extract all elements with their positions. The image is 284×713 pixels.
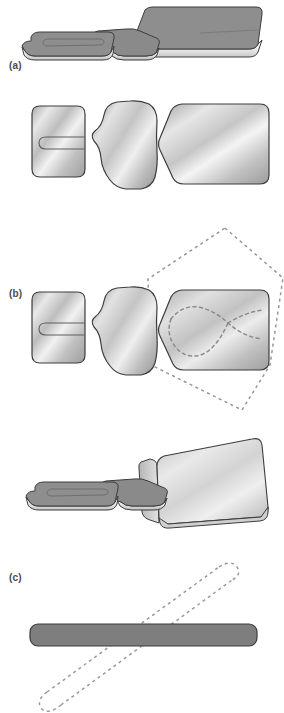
outline-rounded-pentagon-c <box>159 290 270 370</box>
outline-rounded-square-c-body <box>32 292 85 363</box>
outline-organic-blob-c-body <box>92 287 157 375</box>
slab-small-a <box>22 32 114 60</box>
outline-rounded-pentagon-b-body <box>159 104 270 184</box>
slab-large-d-face <box>157 439 268 525</box>
rotated-bar-cap-lower-e <box>39 692 61 711</box>
outline-organic-blob-c <box>92 287 157 375</box>
outline-organic-blob-b <box>92 101 157 189</box>
panel-c-illustration <box>0 215 284 420</box>
outline-rounded-square-b <box>32 106 85 177</box>
slab-small-d <box>26 482 118 510</box>
panel-b: (b) <box>0 95 284 215</box>
rotated-bar-cap-upper-e <box>219 563 239 580</box>
outline-rounded-pentagon-c-body <box>159 290 270 370</box>
outline-rounded-square-c <box>32 292 85 363</box>
panel-label-a: (a) <box>9 60 22 71</box>
panel-b-illustration <box>0 95 284 215</box>
outline-organic-blob-b-body <box>92 101 157 189</box>
panel-a-illustration <box>0 0 284 95</box>
figure-root: (a) <box>0 0 284 713</box>
outline-rounded-square-b-body <box>32 106 85 177</box>
outline-rounded-pentagon-b <box>159 104 270 184</box>
panel-e: (e) <box>0 540 284 713</box>
horizontal-bar-e <box>30 624 257 646</box>
panel-e-illustration <box>0 540 284 713</box>
panel-d-illustration <box>0 420 284 540</box>
panel-c: (c) <box>0 215 284 420</box>
slab-small-d-top <box>26 482 118 506</box>
panel-a: (a) <box>0 0 284 95</box>
panel-d: (d) <box>0 420 284 540</box>
horizontal-bar-e-body <box>30 624 257 646</box>
slab-small-a-top <box>22 32 114 56</box>
slab-large-d <box>139 439 268 529</box>
